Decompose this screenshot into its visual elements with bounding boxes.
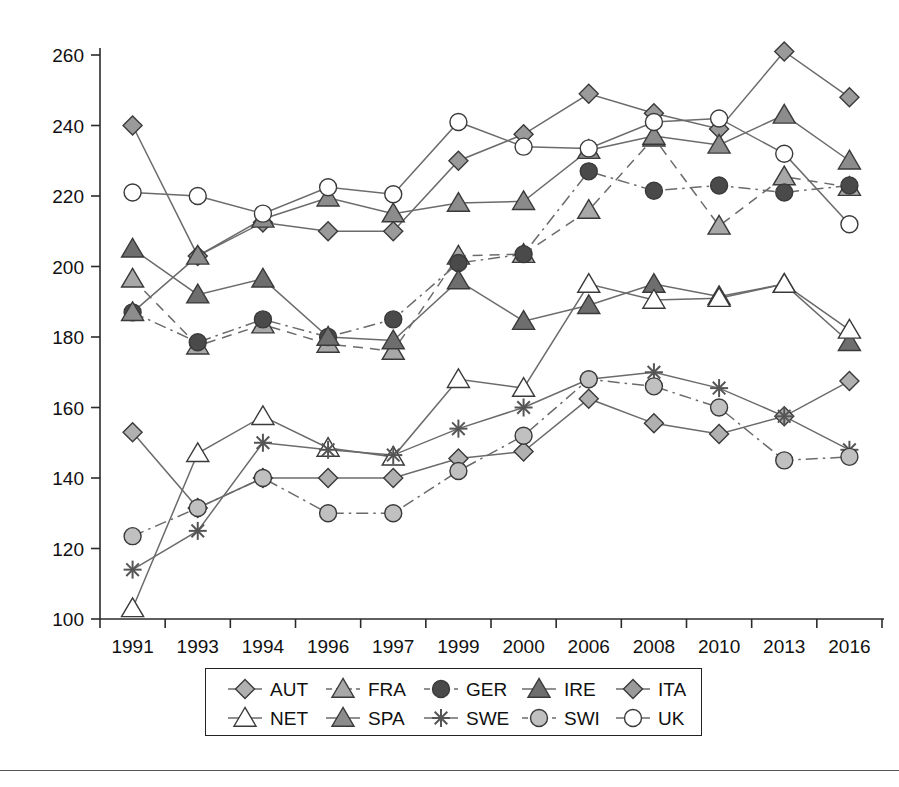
legend-label-SWE: SWE [466, 708, 509, 729]
series-markers-SPA [122, 104, 861, 320]
x-tick-label: 1991 [111, 636, 153, 657]
series-markers-NET [122, 274, 861, 617]
data-point-GER-1993 [189, 334, 206, 351]
legend-marker-SWE [432, 709, 450, 727]
y-tick-label: 100 [52, 609, 84, 630]
data-point-UK-1999 [450, 113, 467, 130]
series-ITA [133, 51, 850, 255]
data-point-SWE-1999 [449, 420, 467, 438]
legend-marker-NET [234, 708, 256, 727]
y-tick-label: 260 [52, 45, 84, 66]
data-point-AUT-2008 [644, 414, 663, 433]
legend-marker-AUT [236, 680, 255, 699]
data-point-UK-2006 [580, 140, 597, 157]
data-point-ITA-2013 [775, 42, 794, 61]
x-tick-label: 2010 [698, 636, 740, 657]
series-line-SWI [133, 379, 850, 536]
data-point-SWI-2013 [776, 452, 793, 469]
data-point-AUT-1996 [319, 469, 338, 488]
legend-marker-SWI [531, 710, 548, 727]
data-point-UK-1991 [124, 184, 141, 201]
legend-label-GER: GER [466, 679, 507, 700]
legend-svg: AUTFRAGERIREITANETSPASWESWIUK [206, 669, 701, 735]
data-point-NET-1993 [187, 443, 209, 462]
data-point-SWE-1997 [384, 446, 402, 464]
data-point-SWE-1996 [319, 441, 337, 459]
data-point-UK-2008 [645, 113, 662, 130]
data-point-SWI-1994 [254, 470, 271, 487]
data-point-SWI-2008 [645, 378, 662, 395]
x-tick-label: 2006 [568, 636, 610, 657]
x-tick-label: 2013 [763, 636, 805, 657]
data-point-UK-1997 [385, 186, 402, 203]
data-point-AUT-2000 [514, 442, 533, 461]
data-point-GER-2010 [711, 177, 728, 194]
data-point-UK-1996 [320, 179, 337, 196]
data-point-SWI-1999 [450, 462, 467, 479]
data-point-SWI-1996 [320, 505, 337, 522]
data-point-IRE-1991 [122, 238, 144, 257]
x-tick-label: 2008 [633, 636, 675, 657]
x-tick-label: 1994 [242, 636, 285, 657]
data-point-SWE-2000 [515, 399, 533, 417]
data-point-GER-2008 [645, 182, 662, 199]
data-point-FRA-2010 [708, 215, 730, 234]
data-point-SPA-1999 [447, 193, 469, 212]
series-markers-ITA [123, 42, 859, 265]
series-IRE [133, 249, 850, 342]
data-point-GER-2016 [841, 177, 858, 194]
data-point-SWE-2013 [775, 407, 793, 425]
data-point-GER-2006 [580, 163, 597, 180]
series-markers-SWI [124, 371, 858, 545]
legend-label-ITA: ITA [658, 679, 686, 700]
legend-label-NET: NET [270, 708, 308, 729]
series-line-IRE [133, 249, 850, 342]
data-point-AUT-2016 [840, 372, 859, 391]
series-FRA [133, 138, 850, 351]
legend-marker-ITA [624, 680, 643, 699]
y-tick-label: 180 [52, 327, 84, 348]
x-tick-label: 1997 [372, 636, 414, 657]
data-point-SWE-1994 [254, 434, 272, 452]
legend-label-IRE: IRE [564, 679, 596, 700]
legend-label-SWI: SWI [564, 708, 600, 729]
data-point-UK-2000 [515, 138, 532, 155]
y-tick-label: 160 [52, 398, 84, 419]
data-point-SWI-1997 [385, 505, 402, 522]
legend-label-FRA: FRA [368, 679, 406, 700]
data-point-NET-2006 [578, 274, 600, 293]
y-tick-label: 240 [52, 116, 84, 137]
data-point-FRA-1991 [122, 268, 144, 287]
data-point-NET-2016 [838, 319, 860, 338]
series-markers-GER [124, 163, 858, 351]
data-point-SWE-1991 [124, 561, 142, 579]
data-point-SWI-2010 [711, 399, 728, 416]
series-SWI [133, 379, 850, 536]
line-chart: 1001201401601802002202402601991199319941… [0, 0, 899, 660]
series-line-GER [133, 171, 850, 342]
data-point-AUT-1997 [384, 469, 403, 488]
data-point-SWI-1993 [189, 499, 206, 516]
chart-svg: 1001201401601802002202402601991199319941… [0, 0, 899, 660]
data-point-SWI-2016 [841, 448, 858, 465]
data-point-UK-2016 [841, 216, 858, 233]
series-markers-SWE [124, 363, 859, 578]
data-point-SWI-2006 [580, 371, 597, 388]
data-point-GER-1994 [254, 311, 271, 328]
legend-marker-IRE [528, 679, 550, 698]
series-line-ITA [133, 51, 850, 255]
chart-legend: AUTFRAGERIREITANETSPASWESWIUK [205, 668, 702, 736]
y-tick-label: 120 [52, 539, 84, 560]
bottom-divider [0, 770, 899, 771]
data-point-UK-2013 [776, 145, 793, 162]
data-point-SPA-2016 [838, 150, 860, 169]
series-SPA [133, 115, 850, 312]
series-GER [133, 171, 850, 342]
legend-marker-GER [433, 681, 450, 698]
series-line-FRA [133, 138, 850, 351]
data-point-NET-2013 [773, 274, 795, 293]
legend-label-SPA: SPA [368, 708, 405, 729]
data-point-NET-1991 [122, 598, 144, 617]
series-markers-AUT [123, 372, 859, 518]
data-point-NET-1999 [447, 369, 469, 388]
